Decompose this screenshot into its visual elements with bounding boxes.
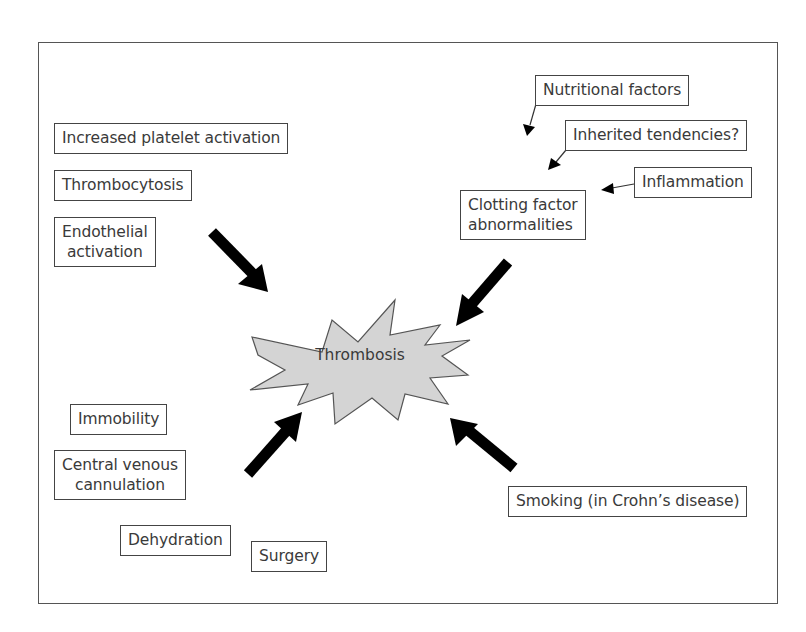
factor-surgery: Surgery: [251, 541, 327, 572]
arrow-inflammation: [601, 183, 634, 194]
arrow-inherited: [548, 150, 566, 170]
arrow-upper-left: [212, 232, 268, 292]
factor-thrombocytosis: Thrombocytosis: [54, 170, 192, 201]
factor-dehydration: Dehydration: [120, 525, 231, 556]
factor-clotting-factor-abnormalities: Clotting factorabnormalities: [460, 190, 586, 240]
factor-central-venous-cannulation: Central venouscannulation: [54, 450, 186, 500]
factor-inherited-tendencies: Inherited tendencies?: [565, 120, 747, 151]
factor-endothelial-activation: Endothelialactivation: [54, 217, 156, 267]
factor-nutritional-factors: Nutritional factors: [535, 75, 689, 106]
arrow-nutritional: [523, 104, 536, 136]
factor-inflammation: Inflammation: [634, 167, 752, 198]
arrow-lower-right: [450, 418, 514, 468]
factor-immobility: Immobility: [70, 404, 167, 435]
factor-increased-platelet-activation: Increased platelet activation: [54, 123, 288, 154]
arrow-upper-right: [456, 262, 508, 326]
thrombosis-label: Thrombosis: [300, 346, 420, 364]
factor-smoking: Smoking (in Crohn’s disease): [508, 486, 747, 517]
arrow-lower-left: [248, 412, 302, 474]
